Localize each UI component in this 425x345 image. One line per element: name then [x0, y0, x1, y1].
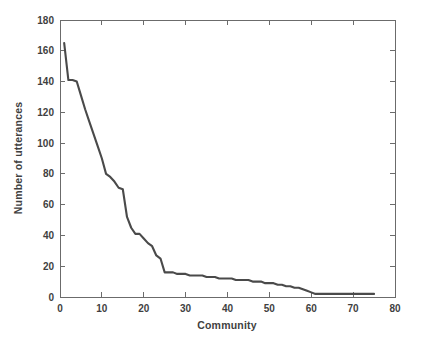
x-axis-label: Community — [197, 319, 257, 331]
x-tick-label: 20 — [138, 303, 150, 314]
chart-figure: 01020304050607080 0204060801001201401601… — [0, 0, 425, 345]
x-tick-label: 40 — [222, 303, 234, 314]
y-tick-label: 40 — [43, 230, 55, 241]
x-tick-label: 30 — [180, 303, 192, 314]
x-tick-label: 0 — [57, 303, 63, 314]
y-tick-label: 100 — [37, 138, 54, 149]
y-tick-label: 180 — [37, 15, 54, 26]
y-tick-label: 80 — [43, 168, 55, 179]
y-tick-label: 60 — [43, 199, 55, 210]
y-tick-label: 140 — [37, 76, 54, 87]
y-axis-label: Number of utterances — [12, 102, 24, 215]
x-tick-label: 10 — [96, 303, 108, 314]
y-tick-label: 120 — [37, 107, 54, 118]
x-tick-label: 80 — [389, 303, 401, 314]
y-tick-label: 20 — [43, 261, 55, 272]
y-tick-label: 160 — [37, 45, 54, 56]
utterances-per-community-line-chart: 01020304050607080 0204060801001201401601… — [0, 0, 425, 345]
x-tick-label: 50 — [264, 303, 276, 314]
x-tick-label: 70 — [348, 303, 360, 314]
plot-area-background — [60, 20, 395, 297]
y-tick-label: 0 — [48, 292, 54, 303]
x-tick-label: 60 — [306, 303, 318, 314]
